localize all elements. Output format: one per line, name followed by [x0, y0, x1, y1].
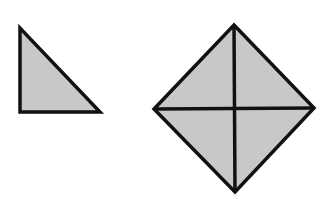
horizontal-divider [154, 108, 314, 109]
diamond-square [154, 25, 314, 192]
right-triangle [20, 28, 100, 112]
diagram-canvas [0, 0, 327, 199]
